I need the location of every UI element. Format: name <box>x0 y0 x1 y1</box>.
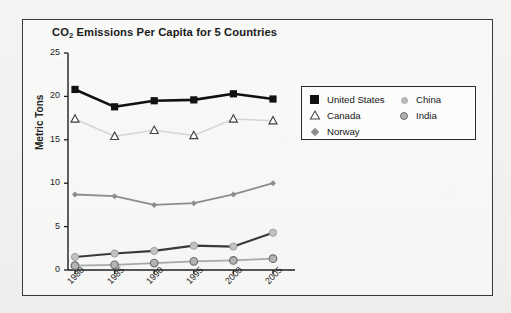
light-circle-icon <box>398 93 410 105</box>
legend-item-india[interactable]: India <box>398 107 441 123</box>
gray-circle-icon <box>398 109 410 121</box>
legend-column-left: United States Canada Norway <box>309 91 385 139</box>
y-axis-tick-label: 20 <box>38 90 60 100</box>
legend-item-united-states[interactable]: United States <box>309 91 385 107</box>
filled-square-icon <box>309 93 321 105</box>
legend-label-china: China <box>416 94 441 105</box>
legend-label-norway: Norway <box>327 126 360 137</box>
y-axis-tick-label: 15 <box>38 134 60 144</box>
chart-legend: United States Canada Norway China India <box>301 86 476 140</box>
y-axis-tick-label: 25 <box>38 47 60 57</box>
y-axis-tick-label: 10 <box>38 177 60 187</box>
chart-title-subscript: 2 <box>69 31 73 40</box>
figure-frame <box>22 19 493 296</box>
legend-item-norway[interactable]: Norway <box>309 123 385 139</box>
legend-item-china[interactable]: China <box>398 91 441 107</box>
chart-title-rest: Emissions Per Capita for 5 Countries <box>73 26 277 38</box>
legend-label-united-states: United States <box>327 94 385 105</box>
y-axis-tick-label: 0 <box>38 264 60 274</box>
chart-title: CO2 Emissions Per Capita for 5 Countries <box>52 26 277 38</box>
open-triangle-icon <box>309 109 321 121</box>
legend-label-canada: Canada <box>327 110 361 121</box>
diamond-icon <box>309 125 321 137</box>
legend-label-india: India <box>416 110 437 121</box>
y-axis-tick-label: 5 <box>38 221 60 231</box>
legend-column-right: China India <box>398 91 441 123</box>
chart-title-main: CO <box>52 26 69 38</box>
legend-item-canada[interactable]: Canada <box>309 107 385 123</box>
